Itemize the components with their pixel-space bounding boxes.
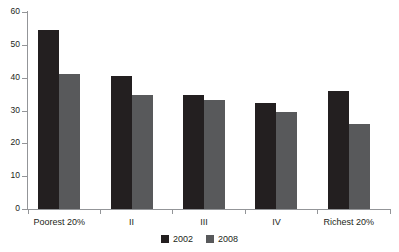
bar-2002-iv — [255, 103, 276, 209]
bar-2002-ii — [111, 76, 132, 209]
y-axis-tick-label: 20 — [0, 138, 20, 147]
x-axis-tick — [28, 209, 29, 214]
y-axis-tick-label: 0 — [0, 204, 20, 213]
bar-2008-ii — [132, 95, 153, 209]
x-axis-tick — [172, 209, 173, 214]
bar-2002-poorest-20- — [38, 30, 59, 209]
bar-chart: 0102030405060 Poorest 20%IIIIIIVRichest … — [0, 0, 399, 252]
bar-2002-iii — [183, 95, 204, 209]
legend-entry-2008: 2008 — [206, 234, 238, 244]
x-axis-tick — [317, 209, 318, 214]
y-axis-tick-label: 60 — [0, 7, 20, 16]
bar-2008-iv — [276, 112, 297, 209]
y-axis-tick-label: 50 — [0, 40, 20, 49]
legend-swatch-2002 — [161, 235, 169, 243]
legend-label: 2008 — [218, 234, 238, 244]
x-axis-tick — [100, 209, 101, 214]
legend-label: 2002 — [173, 234, 193, 244]
x-axis-tick — [245, 209, 246, 214]
x-axis-tick-label: Richest 20% — [299, 217, 399, 228]
legend-swatch-2008 — [206, 235, 214, 243]
y-axis-tick-label: 30 — [0, 106, 20, 115]
bar-2002-richest-20- — [328, 91, 349, 209]
plot-area — [28, 12, 390, 209]
bar-2008-poorest-20- — [59, 74, 80, 209]
legend-entry-2002: 2002 — [161, 234, 193, 244]
chart-legend: 20022008 — [0, 234, 399, 244]
x-axis-tick — [390, 209, 391, 214]
x-axis-line — [27, 209, 390, 210]
bar-2008-richest-20- — [349, 124, 370, 209]
y-axis-tick-label: 10 — [0, 171, 20, 180]
bar-2008-iii — [204, 100, 225, 209]
y-axis-tick-label: 40 — [0, 73, 20, 82]
